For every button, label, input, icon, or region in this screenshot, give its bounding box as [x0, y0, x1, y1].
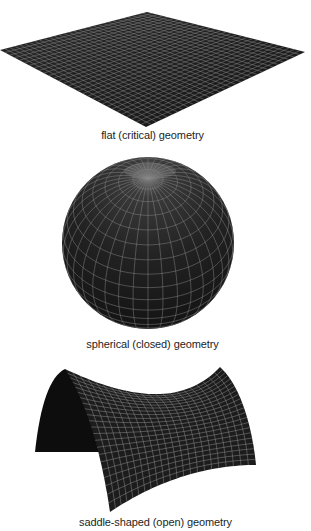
saddle-illustration: [35, 367, 256, 512]
flat-plane-illustration: [0, 12, 305, 127]
flat-geometry-caption: flat (critical) geometry: [0, 129, 308, 141]
sphere-illustration: [62, 157, 234, 329]
saddle-geometry-caption: saddle-shaped (open) geometry: [0, 516, 311, 528]
geometry-figure: [0, 0, 311, 531]
spherical-geometry-caption: spherical (closed) geometry: [0, 338, 308, 350]
